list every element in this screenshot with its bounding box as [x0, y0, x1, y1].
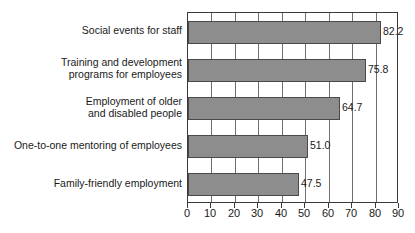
value-label: 82.2	[383, 25, 403, 37]
category-label: Training and development programs for em…	[61, 56, 182, 80]
x-tick-label-90: 90	[383, 207, 413, 219]
bar-row	[188, 97, 397, 120]
category-label: Employment of older and disabled people	[86, 95, 182, 119]
value-label: 75.8	[368, 63, 388, 75]
bar-row	[188, 135, 397, 158]
value-label: 64.7	[342, 101, 362, 113]
horizontal-bar-chart: Social events for staffTraining and deve…	[0, 0, 415, 233]
category-label: Family-friendly employment	[54, 177, 182, 189]
value-label: 51.0	[310, 139, 330, 151]
category-label: Social events for staff	[82, 24, 182, 36]
category-label: One-to-one mentoring of employees	[14, 139, 182, 151]
bar	[188, 59, 366, 82]
plot-area	[187, 12, 398, 203]
value-label: 47.5	[301, 177, 321, 189]
bar-row	[188, 21, 397, 44]
bar	[188, 135, 308, 158]
bar-row	[188, 173, 397, 196]
bar	[188, 173, 299, 196]
bar	[188, 21, 381, 44]
bar	[188, 97, 340, 120]
bar-row	[188, 59, 397, 82]
